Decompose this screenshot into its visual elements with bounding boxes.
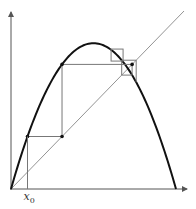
map-curve	[11, 43, 176, 189]
iterate-point	[60, 135, 64, 139]
cobweb-diagram: x0	[0, 0, 196, 209]
iterate-point	[130, 63, 134, 67]
x0-label-sub: 0	[30, 196, 35, 205]
identity-diagonal	[11, 11, 184, 189]
x0-label: x0	[24, 190, 35, 205]
iterate-point	[60, 63, 64, 67]
